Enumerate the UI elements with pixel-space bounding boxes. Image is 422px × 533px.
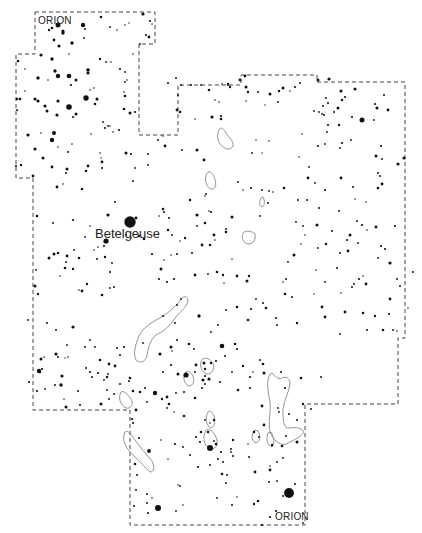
star [269,93,272,96]
star [162,371,164,373]
star [68,53,70,55]
star [271,444,273,446]
star [387,109,390,112]
star [324,316,327,319]
star [226,474,228,476]
star [175,510,177,512]
star [324,143,326,145]
star [50,57,53,60]
star [248,456,250,458]
star [255,298,257,300]
star [179,485,181,487]
star [146,493,148,495]
star [341,142,343,144]
star [380,245,382,247]
star [237,389,240,392]
star [320,376,322,378]
star [204,195,206,197]
star [93,87,95,89]
star [129,112,132,115]
star [230,448,232,450]
star [54,384,56,386]
star [33,97,36,100]
star [146,401,148,403]
star [208,210,210,212]
star [236,306,239,309]
star [394,225,396,227]
star [194,397,197,400]
star [236,348,238,350]
star [114,365,117,368]
star [66,168,69,171]
star [157,139,159,141]
star [182,446,184,448]
star [263,424,266,427]
star [101,294,104,297]
star [34,285,37,288]
star [269,469,272,472]
star [62,183,64,185]
star [315,269,317,271]
star [201,378,204,381]
star [339,252,341,254]
star [160,439,162,441]
star [109,287,111,289]
star [259,359,261,361]
star [141,12,144,15]
star [73,249,75,251]
star [59,383,62,386]
star [213,419,215,421]
star [230,451,232,453]
star [53,39,56,42]
star [93,249,95,251]
star [57,252,60,255]
star [36,390,38,392]
star [339,333,341,335]
star [217,324,219,326]
star [182,504,184,506]
star [134,463,137,466]
star [86,68,90,72]
star [15,165,17,167]
star [310,408,312,410]
star [116,29,118,31]
star [225,228,227,230]
star [170,346,173,349]
star [245,100,247,102]
star [294,483,296,485]
star [242,365,244,367]
star [223,282,225,284]
star [324,189,326,191]
star [177,94,179,96]
star [201,244,204,247]
star [75,79,78,82]
star [89,225,91,227]
star [346,239,348,241]
star [194,274,197,277]
star [132,53,134,55]
star [166,396,169,399]
star [282,495,284,497]
star [70,84,72,86]
star [261,524,263,526]
star [36,215,39,218]
star [388,261,391,264]
star [147,164,149,166]
star [84,236,86,238]
star [125,152,128,155]
star [347,250,350,253]
star [180,84,182,86]
star [231,371,233,373]
star [174,322,176,324]
star [213,234,216,237]
star [132,422,134,424]
star [388,313,390,315]
star [239,79,242,82]
star [155,505,161,511]
star [340,292,342,294]
star [381,158,383,160]
star [278,90,280,92]
star [99,152,101,154]
star [318,111,320,113]
star [268,140,270,142]
